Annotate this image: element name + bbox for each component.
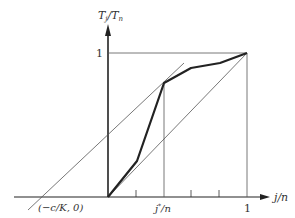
x-intercept-label: (−c/K, 0) xyxy=(38,202,83,213)
diagram-canvas: Tj/Tn 1 j/n (−c/K, 0) j*/n 1 xyxy=(0,0,295,218)
tangent-line xyxy=(28,63,184,210)
x-tick-label-one: 1 xyxy=(244,202,251,215)
y-axis-label: Tj/Tn xyxy=(98,9,124,23)
y-tick-label-one: 1 xyxy=(96,47,103,60)
x-axis-arrow-icon xyxy=(260,194,270,200)
jstar-label: j*/n xyxy=(153,202,171,214)
x-axis-label: j/n xyxy=(271,191,288,204)
y-axis-arrow-icon xyxy=(105,24,111,36)
